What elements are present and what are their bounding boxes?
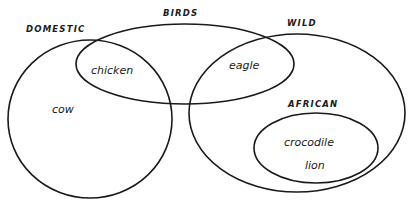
lion-member-label: lion [305,159,325,172]
crocodile-member-label: crocodile [284,136,334,149]
chicken-member-label: chicken [91,64,133,77]
birds-set-label: BIRDS [163,8,198,18]
domestic-set-outline [8,40,172,198]
domestic-set-label: DOMESTIC [26,24,85,34]
wild-set-label: WILD [287,18,317,28]
cow-member-label: cow [52,103,74,116]
diagram-svg: DOMESTIC BIRDS WILD AFRICAN chicken eagl… [0,0,408,206]
african-set-label: AFRICAN [287,99,338,109]
eagle-member-label: eagle [229,59,260,72]
venn-diagram: DOMESTIC BIRDS WILD AFRICAN chicken eagl… [0,0,408,206]
wild-set-outline [189,34,405,192]
